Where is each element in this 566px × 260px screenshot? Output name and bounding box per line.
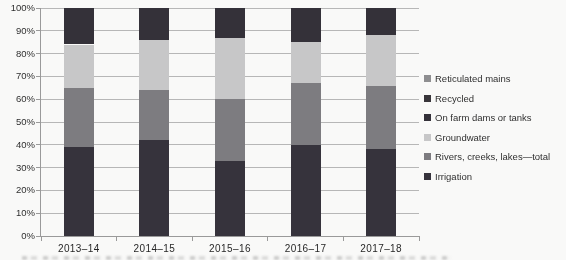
bar-segment-irrigation-2016–17 [291, 145, 321, 236]
y-axis-label: 60% [0, 94, 35, 104]
legend-label: Rivers, creeks, lakes—total [435, 151, 550, 162]
x-axis-tick [116, 236, 117, 241]
y-axis-tick [36, 144, 41, 145]
y-axis-label: 50% [0, 117, 35, 127]
legend-item: Groundwater [424, 131, 566, 144]
bar-segment-on-farm-dams-or-tanks-2014–15 [139, 8, 169, 40]
y-axis-label: 20% [0, 185, 35, 195]
bar-segment-irrigation-2014–15 [139, 140, 169, 236]
bar-segment-irrigation-2015–16 [215, 161, 245, 236]
legend-label: Reticulated mains [435, 73, 511, 84]
legend-label: On farm dams or tanks [435, 112, 532, 123]
x-axis-tick [41, 236, 42, 241]
chart-legend: Reticulated mainsRecycledOn farm dams or… [424, 72, 566, 189]
bar-segment-groundwater-2013–14 [64, 45, 94, 88]
x-axis-tick [192, 236, 193, 241]
y-axis-label: 40% [0, 140, 35, 150]
bar-segment-on-farm-dams-or-tanks-2017–18 [366, 8, 396, 35]
x-axis-tick [267, 236, 268, 241]
bar-segment-on-farm-dams-or-tanks-2015–16 [215, 8, 245, 38]
y-axis-label: 100% [0, 3, 35, 13]
legend-swatch-rivers-creeks-lakes-total [424, 153, 431, 160]
y-axis-label: 70% [0, 71, 35, 81]
bar-segment-groundwater-2016–17 [291, 42, 321, 83]
y-axis-tick [36, 8, 41, 9]
legend-item: Reticulated mains [424, 72, 566, 85]
legend-item: On farm dams or tanks [424, 111, 566, 124]
y-axis-tick [36, 99, 41, 100]
bar-segment-rivers-creeks-lakes-total-2013–14 [64, 88, 94, 147]
bar-segment-groundwater-2017–18 [366, 35, 396, 85]
y-axis-label: 0% [0, 231, 35, 241]
y-axis-label: 10% [0, 208, 35, 218]
cropped-caption-scan-artifact [22, 256, 451, 260]
y-axis-tick [36, 122, 41, 123]
legend-swatch-recycled [424, 95, 431, 102]
bar-segment-rivers-creeks-lakes-total-2015–16 [215, 99, 245, 161]
legend-label: Recycled [435, 93, 474, 104]
y-axis-label: 30% [0, 163, 35, 173]
x-axis-tick [343, 236, 344, 241]
x-axis-label: 2015–16 [192, 243, 268, 254]
x-axis-label: 2013–14 [41, 243, 117, 254]
bar-segment-on-farm-dams-or-tanks-2016–17 [291, 8, 321, 42]
legend-swatch-irrigation [424, 173, 431, 180]
x-axis-label: 2016–17 [268, 243, 344, 254]
legend-item: Rivers, creeks, lakes—total [424, 150, 566, 163]
legend-swatch-reticulated-mains [424, 75, 431, 82]
x-axis-tick [419, 236, 420, 241]
legend-item: Irrigation [424, 170, 566, 183]
y-axis-tick [36, 53, 41, 54]
bar-segment-irrigation-2017–18 [366, 149, 396, 236]
bar-segment-groundwater-2014–15 [139, 40, 169, 90]
bar-segment-rivers-creeks-lakes-total-2014–15 [139, 90, 169, 140]
bar-segment-on-farm-dams-or-tanks-2013–14 [64, 8, 94, 44]
bar-segment-groundwater-2015–16 [215, 38, 245, 100]
y-axis-tick [36, 190, 41, 191]
legend-item: Recycled [424, 92, 566, 105]
x-axis-label: 2014–15 [117, 243, 193, 254]
y-axis-tick [36, 167, 41, 168]
plot-area: 0%10%20%30%40%50%60%70%80%90%100%2013–14… [40, 8, 419, 237]
legend-label: Groundwater [435, 132, 490, 143]
legend-label: Irrigation [435, 171, 472, 182]
y-axis-label: 80% [0, 49, 35, 59]
legend-swatch-on-farm-dams-or-tanks [424, 114, 431, 121]
x-axis-label: 2017–18 [343, 243, 419, 254]
y-axis-tick [36, 76, 41, 77]
y-axis-tick [36, 213, 41, 214]
scanned-stacked-bar-chart: 0%10%20%30%40%50%60%70%80%90%100%2013–14… [0, 0, 566, 260]
bar-segment-rivers-creeks-lakes-total-2017–18 [366, 86, 396, 150]
y-axis-tick [36, 30, 41, 31]
legend-swatch-groundwater [424, 134, 431, 141]
y-axis-label: 90% [0, 26, 35, 36]
bar-segment-rivers-creeks-lakes-total-2016–17 [291, 83, 321, 145]
bar-segment-irrigation-2013–14 [64, 147, 94, 236]
